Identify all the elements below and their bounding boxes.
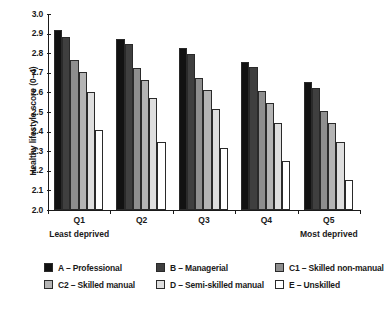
bar-q4-series-4 [274,123,282,210]
bar-q3-series-1 [187,54,195,210]
x-tick-mark [48,210,49,214]
bar-q1-series-5 [95,130,103,210]
bar-q4-series-1 [249,67,257,210]
y-tick-mark [47,34,51,35]
y-tick-label: 2.7 [32,67,43,77]
x-tick-mark [360,210,361,214]
x-axis-group-label-q5: Q5 [298,215,360,225]
y-tick-label: 2.1 [32,185,43,195]
legend-entry-3: C2 – Skilled manual [44,280,156,290]
bar-q2-series-3 [141,80,149,210]
legend-swatch-icon [44,263,53,272]
y-tick-mark [47,190,51,191]
y-tick-label: 2.9 [32,28,43,38]
bar-q1-series-4 [87,92,95,210]
x-axis-group-label-q3: Q3 [173,215,235,225]
legend-entry-1: B – Managerial [156,263,275,273]
x-axis-group-label-q4: Q4 [235,215,297,225]
bar-q2-series-4 [149,98,157,210]
bar-q4-series-2 [258,91,266,210]
bar-q3-series-3 [203,90,211,210]
bar-group-q2 [116,14,165,210]
x-axis-group-label-q2: Q2 [110,215,172,225]
x-tick-mark [235,210,236,214]
bar-q1-series-3 [79,72,87,210]
y-tick-mark [47,53,51,54]
x-axis-annotation-q1: Least deprived [34,229,124,239]
bar-q5-series-0 [304,82,312,210]
bar-q4-series-0 [241,62,249,210]
bar-q1-series-1 [62,37,70,210]
legend-swatch-icon [156,263,165,272]
y-tick-mark [47,14,51,15]
legend-label: B – Managerial [170,263,228,273]
y-tick-mark [47,73,51,74]
y-tick-label: 2.8 [32,48,43,58]
y-tick-mark [47,171,51,172]
x-axis-group-label-q1: Q1 [48,215,110,225]
legend-label: E – Unskilled [289,280,340,290]
legend-label: C1 – Skilled non-manual [289,263,384,273]
bar-q3-series-5 [220,148,228,210]
x-axis-annotation-q5: Most deprived [284,229,374,239]
bar-q5-series-4 [336,142,344,210]
y-tick-label: 2.4 [32,126,43,136]
bar-q1-series-0 [54,30,62,210]
y-tick-label: 2.3 [32,146,43,156]
bar-q2-series-1 [125,44,133,210]
bar-q5-series-3 [328,123,336,210]
bar-q4-series-3 [266,103,274,210]
y-tick-mark [47,151,51,152]
x-tick-mark [110,210,111,214]
y-tick-label: 2.6 [32,87,43,97]
legend-swatch-icon [275,280,284,289]
chart-legend: A – ProfessionalB – ManagerialC1 – Skill… [44,259,362,293]
bar-q5-series-1 [312,88,320,211]
legend-label: D – Semi-skilled manual [170,280,264,290]
bar-q2-series-2 [133,68,141,210]
bar-q3-series-2 [195,78,203,210]
bar-group-q5 [304,14,353,210]
bar-group-q3 [179,14,228,210]
legend-swatch-icon [44,280,53,289]
bar-group-q4 [241,14,290,210]
legend-label: C2 – Skilled manual [58,280,135,290]
y-tick-mark [47,132,51,133]
bar-q3-series-4 [212,109,220,210]
bar-q2-series-5 [157,142,165,210]
x-axis-line [48,210,360,211]
y-tick-label: 3.0 [32,9,43,19]
y-tick-label: 2.2 [32,165,43,175]
bar-q3-series-0 [179,48,187,210]
bar-q5-series-2 [320,111,328,210]
legend-entry-0: A – Professional [44,263,156,273]
y-tick-label: 2.0 [32,205,43,215]
y-tick-label: 2.5 [32,107,43,117]
y-tick-mark [47,112,51,113]
bar-q5-series-5 [345,180,353,210]
legend-entry-5: E – Unskilled [275,280,362,290]
plot-area: 3.02.92.82.72.62.52.42.32.22.12.0 Q1Leas… [48,14,360,210]
legend-label: A – Professional [58,263,122,273]
bar-group-q1 [54,14,103,210]
legend-swatch-icon [275,263,284,272]
legend-swatch-icon [156,280,165,289]
x-tick-mark [298,210,299,214]
x-tick-mark [173,210,174,214]
bar-q2-series-0 [116,39,124,210]
legend-entry-2: C1 – Skilled non-manual [275,263,362,273]
legend-entry-4: D – Semi-skilled manual [156,280,275,290]
bar-q4-series-5 [282,161,290,210]
bar-q1-series-2 [70,60,78,210]
y-tick-mark [47,92,51,93]
